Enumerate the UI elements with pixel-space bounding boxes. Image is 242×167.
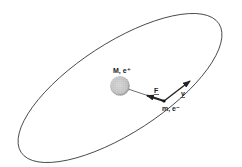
velocity-label: v — [181, 90, 185, 97]
electron-dot — [162, 99, 165, 102]
orbit-diagram: M, e⁺ F v m, e⁻ — [0, 0, 242, 167]
electron-label: m, e⁻ — [162, 105, 180, 113]
velocity-arrow — [164, 81, 190, 101]
nucleus-label: M, e⁺ — [113, 67, 131, 75]
force-arrow — [147, 96, 164, 102]
nucleus — [111, 77, 130, 96]
force-label: F — [154, 87, 159, 94]
